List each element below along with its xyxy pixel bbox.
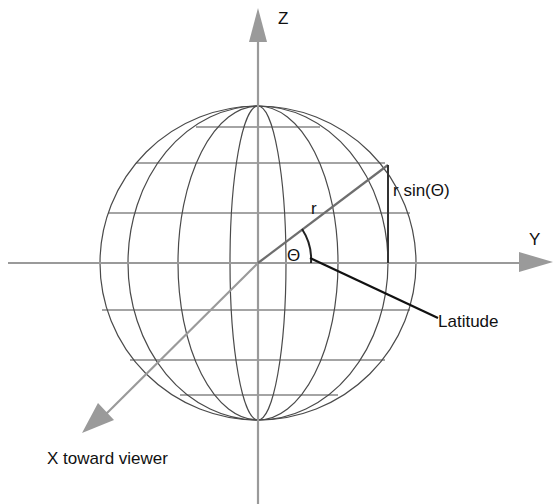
height-label: r sin(Θ): [393, 181, 450, 200]
radius-line: [258, 165, 388, 263]
z-arrow-icon: [249, 8, 267, 42]
y-arrow-icon: [519, 252, 553, 272]
spherical-coordinates-diagram: Z Y X toward viewer r Θ r sin(Θ) Latitud…: [0, 0, 558, 504]
latitude-pointer: [310, 258, 438, 318]
axes: [8, 8, 553, 504]
x-arrow-icon: [82, 403, 114, 433]
y-axis-label: Y: [529, 230, 540, 249]
z-axis-label: Z: [278, 9, 288, 28]
angle-label: Θ: [287, 246, 300, 265]
radius-label: r: [311, 199, 317, 218]
x-axis-label: X toward viewer: [47, 449, 168, 468]
latitude-label: Latitude: [438, 312, 499, 331]
angle-arc: [302, 229, 311, 263]
